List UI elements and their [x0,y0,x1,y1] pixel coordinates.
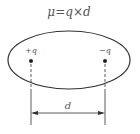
positive-charge-dot [29,59,33,63]
negative-charge-label: −q [99,46,111,55]
dipole-moment-formula: μ=q×d [47,5,91,19]
molecule-ellipse [8,31,130,89]
negative-charge-dot [103,59,107,63]
distance-label: d [65,100,71,111]
right-arrowhead-icon [98,111,105,115]
dipole-diagram: μ=q×d +q −q d [0,0,140,134]
positive-charge-label: +q [25,46,37,55]
left-arrowhead-icon [31,111,38,115]
